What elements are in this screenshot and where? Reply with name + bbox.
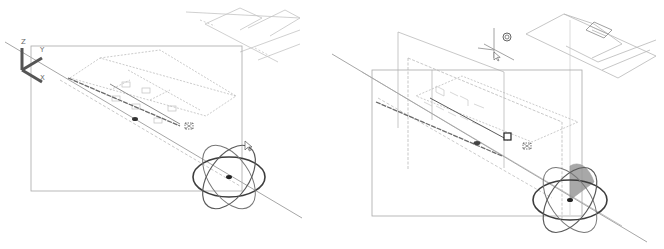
ucs-x-label: X bbox=[40, 74, 45, 82]
cursor-icon bbox=[245, 141, 252, 151]
snap-marker-icon bbox=[503, 33, 511, 41]
rotate-gizmo[interactable] bbox=[192, 136, 266, 218]
viewport-left[interactable]: Z Y X bbox=[0, 0, 332, 249]
selected-grip[interactable] bbox=[504, 133, 511, 140]
cursor-icon bbox=[494, 52, 500, 61]
section-grip[interactable] bbox=[474, 141, 481, 145]
viewport-left-canvas[interactable]: Z Y X bbox=[0, 0, 332, 249]
section-grip[interactable] bbox=[132, 117, 138, 121]
ucs-y-label: Y bbox=[39, 46, 45, 54]
section-line-parallel bbox=[362, 72, 622, 226]
end-grip-icon[interactable] bbox=[523, 143, 531, 149]
section-line[interactable] bbox=[5, 42, 302, 218]
end-grip-icon[interactable] bbox=[185, 123, 193, 129]
section-line-dashed bbox=[378, 98, 552, 198]
section-cut-line[interactable] bbox=[68, 78, 180, 126]
viewport-right-canvas[interactable] bbox=[332, 0, 664, 249]
floor-outline bbox=[416, 76, 578, 142]
room-marks bbox=[112, 82, 176, 123]
rotate-gizmo-active[interactable] bbox=[532, 158, 607, 242]
section-cut-line[interactable] bbox=[376, 102, 502, 156]
ucs-icon: Z Y X bbox=[21, 38, 45, 82]
ucs-z-label: Z bbox=[21, 38, 26, 46]
floor-outline bbox=[70, 50, 236, 116]
viewport-right[interactable] bbox=[332, 0, 664, 249]
room-labels-faint bbox=[424, 86, 490, 130]
section-line-dashed bbox=[60, 80, 240, 186]
floorplan-background bbox=[186, 8, 300, 62]
section-planes bbox=[398, 32, 562, 220]
